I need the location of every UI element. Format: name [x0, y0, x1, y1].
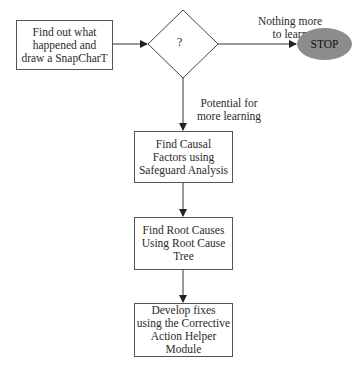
edge-label-line: Potential for	[186, 97, 272, 110]
root-causes-box: Find Root Causes Using Root Cause Tree	[134, 217, 233, 270]
stop-terminal: STOP	[297, 28, 352, 60]
box-line: Find Root Causes	[143, 224, 225, 237]
box-line: Module	[166, 343, 202, 356]
box-line: Factors using	[153, 151, 215, 164]
box-line: Action Helper	[151, 330, 216, 343]
corrective-action-box: Develop fixes using the Corrective Actio…	[134, 303, 233, 357]
decision-diamond	[148, 10, 218, 78]
edge-label-potential: Potential for more learning	[186, 97, 272, 123]
box-line: Find Causal	[156, 138, 211, 151]
start-box-line: happened and	[33, 39, 97, 52]
box-line: Develop fixes	[151, 304, 215, 317]
start-box: Find out what happened and draw a SnapCh…	[16, 20, 113, 70]
decision-label: ?	[177, 35, 182, 50]
stop-label: STOP	[311, 38, 339, 50]
edge-label-line: Nothing more	[245, 15, 335, 28]
box-line: Tree	[173, 250, 194, 263]
start-box-line: draw a SnapCharT	[21, 52, 107, 65]
causal-factors-box: Find Causal Factors using Safeguard Anal…	[134, 131, 233, 183]
box-line: using the Corrective	[137, 317, 230, 330]
start-box-line: Find out what	[33, 26, 97, 39]
edge-label-line: more learning	[186, 110, 272, 123]
box-line: Using Root Cause	[142, 237, 226, 250]
box-line: Safeguard Analysis	[139, 164, 228, 177]
